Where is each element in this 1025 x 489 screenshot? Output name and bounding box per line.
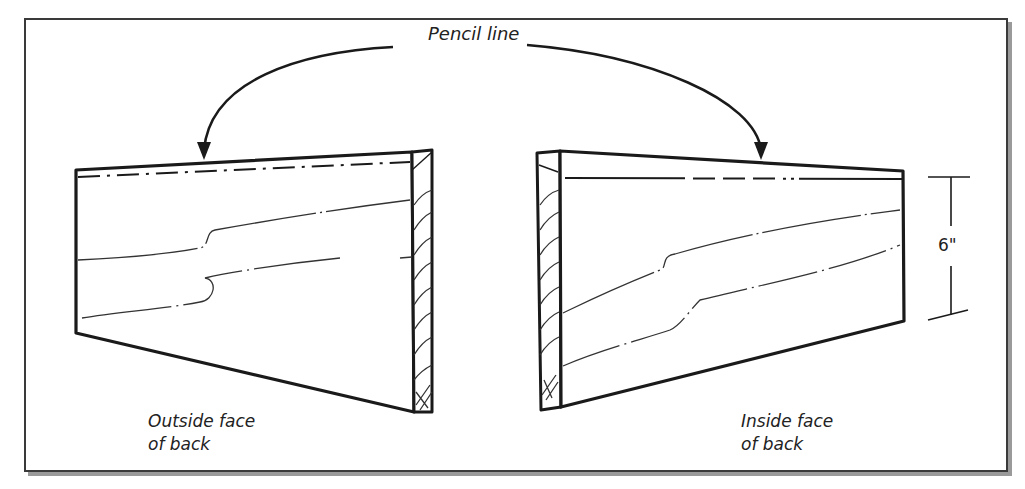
pencil-line-arrow-right bbox=[527, 45, 761, 150]
outside-face-label: Outside face of back bbox=[148, 410, 255, 456]
outside-face-label-line1: Outside face bbox=[148, 410, 255, 433]
arrowhead-left-icon bbox=[197, 142, 211, 160]
inside-face-label-line2: of back bbox=[741, 433, 833, 456]
inside-face-label-line1: Inside face bbox=[741, 410, 833, 433]
left-board bbox=[76, 150, 432, 412]
right-board bbox=[537, 151, 904, 410]
inside-face-label: Inside face of back bbox=[741, 410, 833, 456]
outside-face-label-line2: of back bbox=[148, 433, 255, 456]
arrowhead-right-icon bbox=[754, 142, 768, 160]
dimension-label: 6" bbox=[938, 233, 957, 257]
pencil-line-label: Pencil line bbox=[428, 22, 519, 45]
pencil-line-arrow-left bbox=[204, 47, 393, 150]
